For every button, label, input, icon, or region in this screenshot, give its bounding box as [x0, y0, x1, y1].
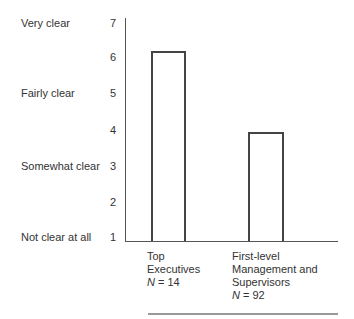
x-label-line: First-level: [232, 250, 318, 263]
x-label-line: Top: [147, 250, 200, 263]
x-axis: [125, 241, 338, 242]
sample-size: N = 14: [147, 276, 200, 289]
scale-label-not-clear: Not clear at all: [21, 231, 91, 244]
x-label-first-level-management: First-level Management and Supervisors N…: [232, 250, 318, 302]
x-label-top-executives: Top Executives N = 14: [147, 250, 200, 289]
y-tick-6: 6: [104, 51, 116, 64]
scale-label-fairly-clear: Fairly clear: [21, 87, 75, 100]
y-axis: [125, 18, 126, 242]
n-symbol: N: [232, 289, 240, 301]
x-label-line: Management and: [232, 263, 318, 276]
x-label-line: Executives: [147, 263, 200, 276]
bar-first-level-management: [248, 132, 284, 241]
y-tick-5: 5: [104, 87, 116, 100]
scale-label-somewhat-clear: Somewhat clear: [21, 160, 100, 173]
n-value: = 14: [158, 276, 180, 288]
n-symbol: N: [147, 276, 155, 288]
x-label-line: Supervisors: [232, 276, 318, 289]
sample-size: N = 92: [232, 289, 318, 302]
scale-label-very-clear: Very clear: [21, 17, 70, 30]
n-value: = 92: [243, 289, 265, 301]
y-tick-2: 2: [104, 196, 116, 209]
y-tick-7: 7: [104, 17, 116, 30]
y-tick-1: 1: [104, 231, 116, 244]
bottom-rule: [148, 313, 338, 315]
y-tick-3: 3: [104, 160, 116, 173]
y-tick-4: 4: [104, 124, 116, 137]
bar-top-executives: [151, 51, 186, 241]
